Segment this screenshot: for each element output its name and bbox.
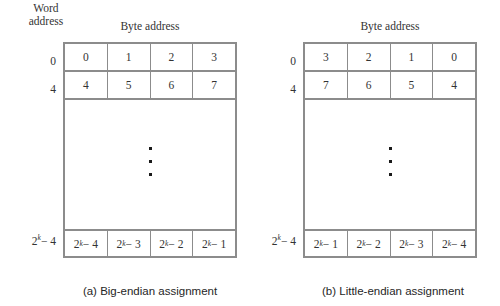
word-address-label: Word address (18, 2, 74, 28)
row-label-big-endian-last: 2k− 4 (10, 234, 56, 248)
byte-cell: 2k− 3 (108, 231, 151, 256)
ellipsis-dot (389, 160, 392, 163)
byte-cell: 2k− 1 (305, 231, 348, 256)
byte-cell: 0 (65, 44, 108, 70)
cell-tail: − 3 (408, 238, 423, 250)
byte-cell: 2k− 2 (151, 231, 194, 256)
cell-value: 7 (323, 79, 329, 91)
cell-value: 1 (409, 51, 415, 63)
row-label-text: 4 (50, 83, 56, 95)
endianness-figure: Word address Byte address 0 4 2k− 4 0 1 … (0, 0, 500, 306)
cell-value: 4 (451, 79, 457, 91)
row-label-little-endian-4: 4 (258, 83, 296, 96)
table-row: 0 1 2 3 (65, 44, 235, 72)
byte-cell: 2k− 4 (65, 231, 108, 256)
row-label-little-endian-last: 2k− 4 (250, 234, 296, 248)
ellipsis-dot (149, 147, 152, 150)
cell-value: 2 (169, 51, 175, 63)
row-label-text: 4 (290, 83, 296, 95)
byte-cell: 3 (305, 44, 348, 70)
byte-cell: 1 (108, 44, 151, 70)
byte-cell: 2 (348, 44, 391, 70)
byte-cell: 0 (433, 44, 475, 70)
memory-table-little-endian: 3 2 1 0 7 6 5 4 2k− 1 2k− 2 2k− 3 2k− 4 (303, 42, 477, 258)
cell-tail: − 2 (366, 238, 381, 250)
row-label-text: 0 (50, 55, 56, 67)
cell-value: 3 (211, 51, 217, 63)
vertical-ellipsis-icon (389, 147, 392, 176)
byte-cell: 2k− 3 (391, 231, 434, 256)
ellipsis-dot (389, 173, 392, 176)
byte-cell: 2k− 4 (433, 231, 475, 256)
caption-little-endian: (b) Little-endian assignment (298, 285, 488, 297)
byte-cell: 6 (348, 72, 391, 98)
row-label-little-endian-0: 0 (258, 55, 296, 68)
row-label-tail: − 4 (41, 235, 56, 247)
ellipsis-dot (389, 147, 392, 150)
cell-tail: − 1 (211, 238, 226, 250)
cell-value: 5 (409, 79, 415, 91)
cell-tail: − 3 (126, 238, 141, 250)
byte-cell: 3 (193, 44, 235, 70)
cell-value: 0 (83, 51, 89, 63)
byte-cell: 2k− 1 (193, 231, 235, 256)
byte-cell: 1 (391, 44, 434, 70)
cell-value: 2 (366, 51, 372, 63)
row-label-big-endian-4: 4 (18, 83, 56, 96)
table-row: 7 6 5 4 (305, 72, 475, 100)
vertical-ellipsis-icon (149, 147, 152, 176)
cell-base: 2 (442, 238, 448, 250)
cell-value: 3 (323, 51, 329, 63)
cell-value: 6 (366, 79, 372, 91)
cell-base: 2 (202, 238, 208, 250)
byte-cell: 5 (391, 72, 434, 98)
byte-cell: 7 (305, 72, 348, 98)
byte-cell: 6 (151, 72, 194, 98)
cell-value: 4 (83, 79, 89, 91)
cell-value: 0 (451, 51, 457, 63)
table-row: 3 2 1 0 (305, 44, 475, 72)
cell-base: 2 (314, 238, 320, 250)
table-row: 2k− 1 2k− 2 2k− 3 2k− 4 (305, 229, 475, 256)
byte-address-header-big-endian: Byte address (88, 20, 212, 33)
row-label-big-endian-0: 0 (18, 55, 56, 68)
word-address-label-line1: Word (33, 2, 58, 14)
ellipsis-dot (149, 173, 152, 176)
cell-tail: − 2 (168, 238, 183, 250)
row-label-tail: − 4 (281, 235, 296, 247)
byte-address-header-little-endian: Byte address (328, 20, 452, 33)
byte-cell: 2 (151, 44, 194, 70)
ellipsis-region-big-endian (65, 100, 235, 229)
cell-value: 1 (126, 51, 132, 63)
ellipsis-region-little-endian (305, 100, 475, 229)
cell-value: 5 (126, 79, 132, 91)
row-label-text: 0 (290, 55, 296, 67)
cell-tail: − 1 (323, 238, 338, 250)
cell-base: 2 (74, 238, 80, 250)
table-row: 2k− 4 2k− 3 2k− 2 2k− 1 (65, 229, 235, 256)
byte-cell: 4 (65, 72, 108, 98)
memory-table-big-endian: 0 1 2 3 4 5 6 7 2k− 4 2k− 3 2k− 2 2k− 1 (63, 42, 237, 258)
table-row: 4 5 6 7 (65, 72, 235, 100)
word-address-label-line2: address (29, 15, 64, 27)
cell-value: 6 (169, 79, 175, 91)
byte-cell: 5 (108, 72, 151, 98)
byte-cell: 7 (193, 72, 235, 98)
cell-tail: − 4 (83, 238, 98, 250)
ellipsis-dot (149, 160, 152, 163)
byte-cell: 2k− 2 (348, 231, 391, 256)
cell-tail: − 4 (451, 238, 466, 250)
cell-value: 7 (211, 79, 217, 91)
caption-big-endian: (a) Big-endian assignment (60, 285, 240, 297)
byte-cell: 4 (433, 72, 475, 98)
